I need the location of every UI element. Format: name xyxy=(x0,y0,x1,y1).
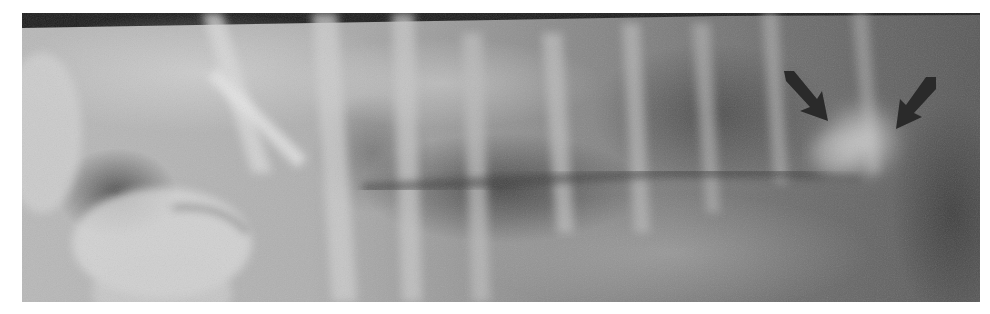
left-arrow-icon xyxy=(782,69,832,125)
right-arrow-icon xyxy=(890,75,940,133)
radiograph-image xyxy=(22,13,980,302)
radiograph-svg xyxy=(22,13,980,302)
